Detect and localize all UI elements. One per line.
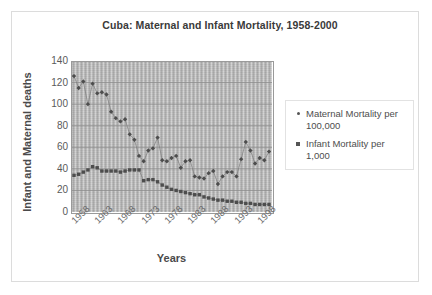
data-point: [90, 81, 94, 85]
data-series-svg: [71, 61, 272, 212]
y-tick-label: 20: [38, 185, 68, 195]
legend-label-infant: Infant Mortality per 1,000: [306, 138, 409, 161]
data-point: [133, 168, 136, 171]
data-point: [72, 74, 76, 78]
data-point: [174, 189, 177, 192]
data-point: [123, 117, 127, 121]
data-point: [216, 182, 220, 186]
data-point: [123, 169, 126, 172]
data-point: [235, 201, 238, 204]
data-point: [137, 168, 140, 171]
data-point: [151, 146, 155, 150]
data-point: [147, 178, 150, 181]
legend-square-icon: [290, 138, 306, 146]
data-point: [267, 149, 271, 153]
data-point: [114, 169, 117, 172]
data-point: [156, 180, 159, 183]
data-point: [248, 148, 252, 152]
data-point: [96, 166, 99, 169]
x-axis-title: Years: [71, 252, 272, 264]
data-point: [193, 193, 196, 196]
data-point: [262, 158, 266, 162]
data-point: [165, 159, 169, 163]
data-point: [239, 157, 243, 161]
data-point: [100, 90, 104, 94]
data-point: [207, 196, 210, 199]
y-tick-label: 80: [38, 121, 68, 131]
data-point: [184, 191, 187, 194]
data-point: [239, 201, 242, 204]
data-point: [198, 193, 201, 196]
data-point: [109, 169, 112, 172]
data-point: [174, 154, 178, 158]
data-point: [100, 169, 103, 172]
data-point: [211, 169, 215, 173]
y-tick-label: 60: [38, 142, 68, 152]
data-point: [244, 140, 248, 144]
data-point: [230, 200, 233, 203]
data-point: [179, 190, 182, 193]
data-point: [221, 198, 224, 201]
data-point: [114, 116, 118, 120]
legend-item-infant: Infant Mortality per 1,000: [290, 138, 409, 161]
data-point: [142, 179, 145, 182]
plot-area: [71, 61, 272, 212]
data-point: [183, 159, 187, 163]
legend-label-maternal: Maternal Mortality per 100,000: [306, 108, 409, 131]
data-point: [118, 119, 122, 123]
data-point: [82, 170, 85, 173]
data-point: [160, 158, 164, 162]
data-point: [216, 198, 219, 201]
data-point: [169, 156, 173, 160]
data-point: [193, 174, 197, 178]
data-point: [146, 148, 150, 152]
data-point: [76, 86, 80, 90]
y-tick-label: 140: [38, 56, 68, 66]
data-point: [151, 178, 154, 181]
data-point: [179, 166, 183, 170]
data-point: [77, 173, 80, 176]
chart-figure: Cuba: Maternal and Infant Mortality, 195…: [0, 0, 432, 295]
chart-title: Cuba: Maternal and Infant Mortality, 195…: [40, 19, 400, 31]
series-infant: [72, 165, 270, 206]
data-point: [81, 79, 85, 83]
legend-dot-icon: [290, 108, 306, 115]
data-point: [170, 188, 173, 191]
y-tick-label: 100: [38, 99, 68, 109]
y-axis-tick-labels: 020406080100120140: [36, 0, 68, 295]
data-point: [109, 109, 113, 113]
data-point: [95, 91, 99, 95]
data-point: [165, 185, 168, 188]
data-point: [226, 200, 229, 203]
data-point: [119, 170, 122, 173]
data-point: [253, 203, 256, 206]
y-tick-label: 120: [38, 78, 68, 88]
data-point: [91, 165, 94, 168]
data-point: [104, 92, 108, 96]
data-point: [105, 169, 108, 172]
data-point: [188, 192, 191, 195]
data-point: [128, 168, 131, 171]
data-point: [72, 174, 75, 177]
data-point: [197, 175, 201, 179]
y-tick-label: 0: [38, 207, 68, 217]
y-tick-label: 40: [38, 164, 68, 174]
data-point: [202, 195, 205, 198]
data-point: [86, 168, 89, 171]
data-point: [161, 183, 164, 186]
data-point: [155, 135, 159, 139]
chart-legend: Maternal Mortality per 100,000 Infant Mo…: [285, 100, 414, 170]
data-point: [258, 203, 261, 206]
data-point: [86, 102, 90, 106]
data-point: [212, 197, 215, 200]
y-axis-title: Infant and Maternal deaths: [21, 52, 33, 232]
legend-item-maternal: Maternal Mortality per 100,000: [290, 108, 409, 131]
data-point: [188, 158, 192, 162]
